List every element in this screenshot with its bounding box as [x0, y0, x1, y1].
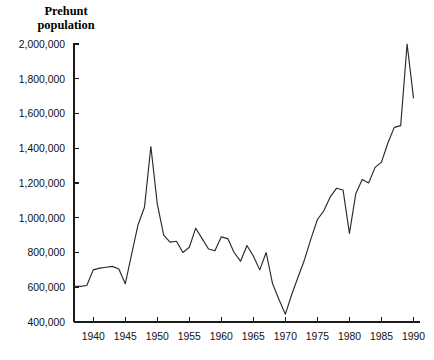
y-tick-label: 1,800,000 [19, 74, 65, 85]
line-chart-plot: 2,000,0001,800,0001,600,0001,400,0001,20… [0, 0, 434, 360]
x-tick-label: 1945 [114, 331, 137, 342]
y-tick-label: 600,000 [27, 282, 65, 293]
y-tick-label: 1,400,000 [19, 143, 65, 154]
y-tick-label: 1,200,000 [19, 178, 65, 189]
x-tick-label: 1980 [338, 331, 361, 342]
y-axis-tick-labels: 2,000,0001,800,0001,600,0001,400,0001,20… [19, 39, 65, 328]
chart-container: Prehunt population 2,000,0001,800,0001,6… [0, 0, 434, 360]
y-tick-label: 1,000,000 [19, 213, 65, 224]
x-axis-tick-labels: 1940194519501955196019651970197519801985… [82, 331, 426, 342]
data-series-line [74, 44, 414, 314]
x-tick-label: 1970 [274, 331, 297, 342]
x-tick-label: 1960 [210, 331, 233, 342]
x-tick-label: 1950 [146, 331, 169, 342]
x-tick-label: 1975 [306, 331, 329, 342]
y-tick-label: 400,000 [27, 317, 65, 328]
x-tick-label: 1965 [242, 331, 265, 342]
x-tick-label: 1985 [370, 331, 393, 342]
x-tick-label: 1990 [402, 331, 425, 342]
x-tick-label: 1940 [82, 331, 105, 342]
x-tick-label: 1955 [178, 331, 201, 342]
y-tick-label: 1,600,000 [19, 108, 65, 119]
y-tick-label: 800,000 [27, 247, 65, 258]
y-tick-label: 2,000,000 [19, 39, 65, 50]
